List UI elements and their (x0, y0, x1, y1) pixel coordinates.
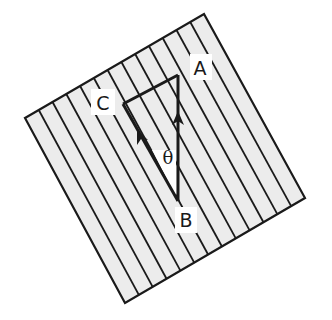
label-a: A (194, 57, 207, 79)
label-theta: θ (163, 147, 174, 168)
label-b: B (179, 209, 192, 231)
diagram-canvas: A C B θ (0, 0, 332, 320)
label-c: C (96, 92, 109, 114)
